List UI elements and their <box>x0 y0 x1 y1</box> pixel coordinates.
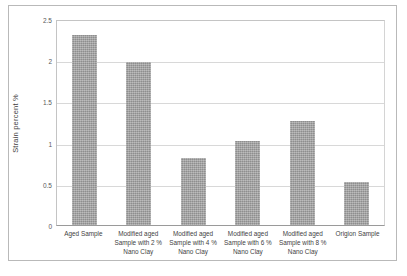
x-axis-tick-label-line: Origion Sample <box>331 229 384 238</box>
x-axis-tick-label-line: Aged Sample <box>57 229 110 238</box>
x-axis-tick-label-line: Modified aged <box>221 229 274 238</box>
x-axis-tick-label: Modified agedSample with 4 %Nano Clay <box>166 229 221 256</box>
bar[interactable] <box>344 182 369 225</box>
x-axis-tick-label-line: Nano Clay <box>221 247 274 256</box>
x-axis-tick-label-line: Nano Clay <box>112 247 165 256</box>
bar-slot <box>330 21 385 225</box>
x-axis-tick-label-line: Sample with 8 % <box>276 238 329 247</box>
bar-slot <box>166 21 221 225</box>
y-axis-tick-label: 1.5 <box>6 99 52 106</box>
bar-series <box>57 21 384 225</box>
bar-slot <box>57 21 112 225</box>
bar[interactable] <box>235 141 260 225</box>
y-axis-tick-label: 2 <box>6 58 52 65</box>
x-axis-tick-label: Origion Sample <box>330 229 385 256</box>
y-axis-tick-label: 0 <box>6 223 52 230</box>
bar-chart-figure: Strain percent % 00.511.522.5 Aged Sampl… <box>0 0 407 276</box>
bar-slot <box>221 21 276 225</box>
bar-slot <box>275 21 330 225</box>
bar[interactable] <box>181 158 206 225</box>
x-axis-tick-label: Modified agedSample with 6 %Nano Clay <box>220 229 275 256</box>
plot-area <box>56 20 385 226</box>
x-axis-tick-labels: Aged SampleModified agedSample with 2 %N… <box>56 229 385 256</box>
x-axis-tick-label-line: Sample with 6 % <box>221 238 274 247</box>
x-axis-tick-label-line: Modified aged <box>276 229 329 238</box>
x-axis-tick-label: Aged Sample <box>56 229 111 256</box>
y-axis-tick-label: 0.5 <box>6 181 52 188</box>
x-axis-tick-label-line: Modified aged <box>167 229 220 238</box>
bar[interactable] <box>290 121 315 225</box>
x-axis-tick-label: Modified agedSample with 2 %Nano Clay <box>111 229 166 256</box>
x-axis-tick-label: Modified agedSample with 8 %Nano Clay <box>275 229 330 256</box>
x-axis-tick-label-line: Nano Clay <box>276 247 329 256</box>
y-axis-tick-label: 2.5 <box>6 17 52 24</box>
bar-slot <box>112 21 167 225</box>
y-axis-tick-labels: 00.511.522.5 <box>0 20 52 226</box>
bar[interactable] <box>126 62 151 225</box>
y-axis-tick-label: 1 <box>6 140 52 147</box>
bar[interactable] <box>72 35 97 225</box>
x-axis-tick-label-line: Sample with 4 % <box>167 238 220 247</box>
x-axis-tick-label-line: Nano Clay <box>167 247 220 256</box>
x-axis-tick-label-line: Modified aged <box>112 229 165 238</box>
x-axis-tick-label-line: Sample with 2 % <box>112 238 165 247</box>
